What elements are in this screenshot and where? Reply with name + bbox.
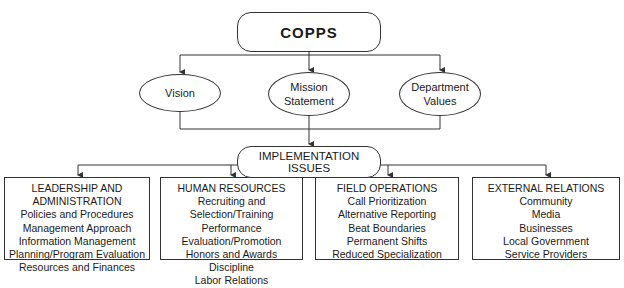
mission-statement-node: Mission Statement	[268, 72, 350, 116]
category-item: Recruiting and Selection/Training	[161, 195, 302, 221]
mission-label-line1: Mission	[290, 80, 327, 94]
category-item: Labor Relations	[195, 274, 269, 287]
external-relations-box: EXTERNAL RELATIONS Community Media Busin…	[472, 177, 620, 260]
category-heading: EXTERNAL RELATIONS	[488, 182, 605, 195]
category-item: Community	[519, 195, 572, 208]
department-label-line2: Values	[424, 94, 457, 108]
category-item: Honors and Awards	[186, 248, 277, 261]
copps-root-node: COPPS	[237, 12, 381, 52]
category-item: Resources and Finances	[19, 261, 135, 274]
vision-node: Vision	[139, 74, 221, 112]
vision-label: Vision	[165, 86, 195, 100]
human-resources-box: HUMAN RESOURCES Recruiting and Selection…	[160, 177, 303, 260]
category-item: Call Prioritization	[348, 195, 427, 208]
category-heading: ADMINISTRATION	[32, 195, 121, 208]
category-item: Businesses	[519, 222, 573, 235]
implementation-label: IMPLEMENTATION ISSUES	[238, 150, 380, 174]
category-heading: LEADERSHIP AND	[32, 182, 123, 195]
category-heading: HUMAN RESOURCES	[178, 182, 286, 195]
category-item: Management Approach	[23, 222, 132, 235]
category-item: Discipline	[209, 261, 254, 274]
copps-title: COPPS	[280, 24, 338, 41]
category-item: Performance Evaluation/Promotion	[161, 222, 302, 248]
department-label-line1: Department	[411, 80, 468, 94]
category-item: Information Management	[19, 235, 136, 248]
category-item: Alternative Reporting	[338, 208, 436, 221]
implementation-issues-node: IMPLEMENTATION ISSUES	[237, 146, 381, 178]
field-operations-box: FIELD OPERATIONS Call Prioritization Alt…	[315, 177, 459, 260]
mission-label-line2: Statement	[284, 94, 334, 108]
category-item: Media	[532, 208, 561, 221]
category-item: Beat Boundaries	[348, 222, 426, 235]
category-item: Policies and Procedures	[20, 208, 133, 221]
category-item: Reduced Specialization	[332, 248, 442, 261]
category-heading: FIELD OPERATIONS	[337, 182, 438, 195]
category-item: Permanent Shifts	[347, 235, 428, 248]
department-values-node: Department Values	[399, 72, 481, 116]
category-item: Service Providers	[505, 248, 587, 261]
leadership-administration-box: LEADERSHIP AND ADMINISTRATION Policies a…	[4, 177, 150, 260]
category-item: Local Government	[503, 235, 589, 248]
category-item: Planning/Program Evaluation	[9, 248, 145, 261]
